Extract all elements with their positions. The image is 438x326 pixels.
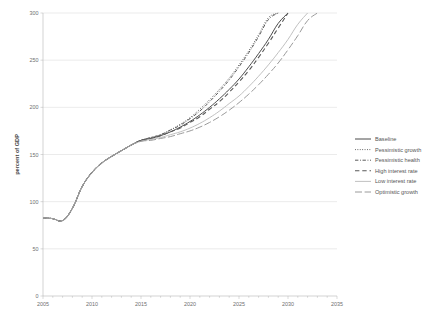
x-tick-label-2020: 2020 (184, 301, 196, 307)
legend-label-baseline: Baseline (375, 136, 396, 142)
line-chart: 050100150200250300 200520102015202020252… (0, 0, 438, 326)
data-series-group (43, 13, 317, 221)
series-line-pessimistic-growth (43, 13, 278, 221)
legend-label-optimistic-growth: Optimistic growth (375, 189, 418, 195)
series-line-baseline (43, 13, 288, 221)
y-axis-tick-labels: 050100150200250300 (30, 10, 39, 299)
y-tick-label-300: 300 (30, 10, 39, 16)
series-line-pessimistic-health (43, 13, 278, 221)
y-tick-label-0: 0 (36, 293, 39, 299)
series-line-optimistic-growth (43, 13, 317, 221)
x-tick-label-2030: 2030 (282, 301, 294, 307)
y-axis-title-text: percent of GDP (14, 134, 20, 175)
x-tick-label-2010: 2010 (86, 301, 98, 307)
y-axis-title: percent of GDP (14, 134, 20, 175)
series-line-high-interest-rate (43, 13, 288, 221)
y-tick-label-250: 250 (30, 57, 39, 63)
x-tick-label-2025: 2025 (233, 301, 245, 307)
x-axis-tick-labels: 2005201020152020202520302035 (37, 301, 343, 307)
legend-label-low-interest-rate: Low interest rate (375, 178, 416, 184)
legend-label-high-interest-rate: High interest rate (375, 168, 418, 174)
y-tick-label-100: 100 (30, 199, 39, 205)
legend-label-pessimistic-health: Pessimistic health (375, 157, 420, 163)
x-tick-label-2005: 2005 (37, 301, 49, 307)
y-tick-label-200: 200 (30, 104, 39, 110)
tick-marks (41, 13, 338, 299)
y-tick-label-50: 50 (33, 246, 39, 252)
legend-label-pessimistic-growth: Pessimistic growth (375, 147, 421, 153)
x-tick-label-2015: 2015 (135, 301, 147, 307)
y-tick-label-150: 150 (30, 152, 39, 158)
chart-legend: BaselinePessimistic growthPessimistic he… (355, 136, 421, 195)
x-tick-label-2035: 2035 (331, 301, 343, 307)
chart-container: 050100150200250300 200520102015202020252… (0, 0, 438, 326)
